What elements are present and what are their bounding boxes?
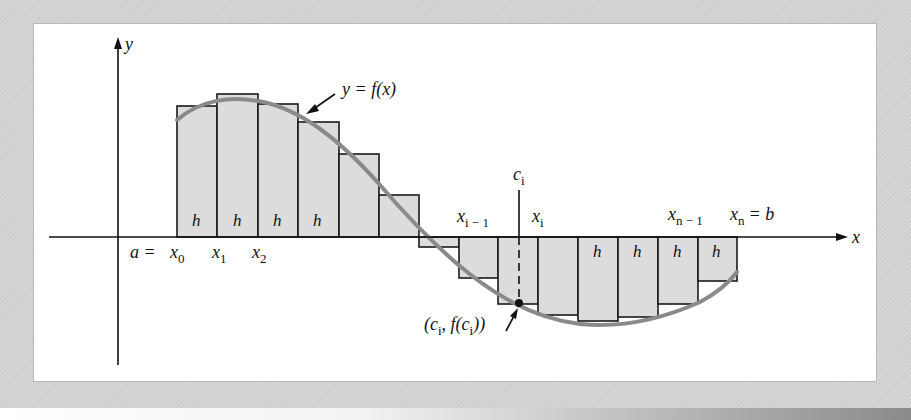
label-a-equals: a =	[130, 242, 156, 262]
point-label-arrowhead-icon	[510, 308, 518, 319]
riemann-sum-figure: y x y = f(x) h h h h h h h h a = x0 x1 x…	[0, 0, 911, 420]
width-label-13: h	[673, 242, 682, 261]
label-ci: ci	[513, 164, 525, 188]
label-x1: x1	[211, 242, 227, 266]
curve-label-arrowhead-icon	[306, 104, 319, 114]
label-xn-minus-1: xn − 1	[667, 204, 703, 228]
width-label-14: h	[712, 242, 721, 261]
x-axis-arrow-icon	[836, 233, 848, 241]
width-label-12: h	[633, 242, 642, 261]
label-sample-point: (ci, f(ci))	[424, 314, 485, 338]
y-axis-label: y	[123, 34, 133, 54]
bottom-edge-strip	[0, 408, 911, 420]
width-label-2: h	[233, 211, 242, 230]
x-axis-label: x	[851, 227, 860, 247]
point-label-arrow	[506, 316, 514, 331]
width-label-1: h	[192, 211, 201, 230]
label-xi: xi	[531, 206, 544, 230]
y-axis-arrow-icon	[114, 37, 122, 49]
rectangle-10	[538, 237, 578, 315]
width-label-11: h	[593, 242, 602, 261]
rectangle-5	[339, 154, 379, 237]
rectangle-6	[379, 195, 419, 237]
label-x2: x2	[251, 242, 267, 266]
label-xn-equals-b: xn= b	[729, 204, 774, 228]
label-x0: x0	[169, 242, 185, 266]
rectangle-9	[498, 237, 538, 304]
curve-label: y = f(x)	[340, 79, 396, 100]
width-label-4: h	[313, 211, 322, 230]
label-xi-minus-1: xi − 1	[456, 206, 489, 230]
width-label-3: h	[273, 211, 282, 230]
sample-point-dot	[515, 299, 523, 307]
